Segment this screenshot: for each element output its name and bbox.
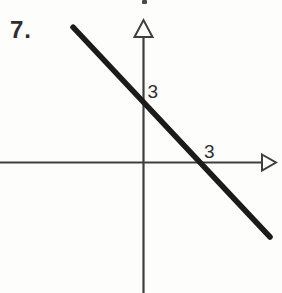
y-intercept-label: 3 bbox=[148, 81, 159, 102]
graph-figure: 7. 3 3 bbox=[0, 0, 282, 293]
x-intercept-label: 3 bbox=[204, 141, 215, 162]
coordinate-plane: 3 3 bbox=[0, 0, 282, 293]
x-axis-arrowhead-icon bbox=[262, 155, 276, 171]
graphed-line bbox=[73, 27, 270, 237]
y-axis-arrowhead-icon bbox=[135, 20, 153, 37]
